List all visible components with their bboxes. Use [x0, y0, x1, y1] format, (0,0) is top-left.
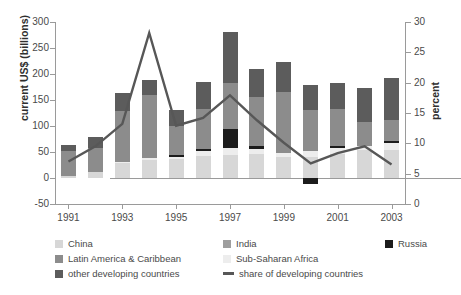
y-tick-label-left-2: 200: [15, 68, 49, 79]
y-tick-label-left-7: -50: [15, 198, 49, 209]
legend-color-swatch: [385, 240, 393, 248]
legend-item-russia[interactable]: Russia: [385, 238, 427, 249]
legend-item-sub-saharan-africa[interactable]: Sub-Saharan Africa: [223, 253, 318, 264]
x-tick-2001: [338, 204, 339, 209]
y-tick-right-15: [406, 113, 411, 114]
share-line-series: [55, 22, 405, 204]
legend-label: Sub-Saharan Africa: [236, 253, 318, 264]
y-tick-label-left-5: 50: [15, 146, 49, 157]
x-tick-label-2003: 2003: [372, 212, 412, 223]
y-tick-label-right-2: 20: [414, 77, 444, 88]
y-tick-right-0: [406, 204, 411, 205]
x-tick-label-1999: 1999: [264, 212, 304, 223]
y-axis-right-title: percent: [429, 61, 441, 141]
legend-color-swatch: [55, 255, 63, 263]
x-tick-label-1993: 1993: [102, 212, 142, 223]
x-tick-1997: [230, 204, 231, 209]
y-tick-label-left-0: 300: [15, 16, 49, 27]
y-tick-label-right-0: 30: [414, 16, 444, 27]
legend-label: Russia: [398, 238, 427, 249]
legend-label: India: [236, 238, 257, 249]
x-tick-label-1991: 1991: [48, 212, 88, 223]
x-tick-1991: [68, 204, 69, 209]
y-tick-label-left-4: 100: [15, 120, 49, 131]
legend-color-swatch: [55, 240, 63, 248]
x-tick-1995: [176, 204, 177, 209]
legend-item-india[interactable]: India: [223, 238, 257, 249]
legend-item-china[interactable]: China: [55, 238, 93, 249]
legend-label: Latin America & Caribbean: [68, 253, 181, 264]
x-tick-label-1995: 1995: [156, 212, 196, 223]
x-tick-1999: [284, 204, 285, 209]
y-tick-label-right-1: 25: [414, 46, 444, 57]
y-tick-label-right-6: 0: [414, 198, 444, 209]
chart-legend: ChinaIndiaRussiaLatin America & Caribbea…: [55, 238, 455, 290]
y-tick-label-left-1: 250: [15, 42, 49, 53]
legend-label: other developing countries: [68, 268, 179, 279]
x-tick-label-1997: 1997: [210, 212, 250, 223]
y-tick-right-20: [406, 83, 411, 84]
legend-color-swatch: [55, 270, 63, 278]
y-tick-right-30: [406, 22, 411, 23]
y-tick-right-10: [406, 143, 411, 144]
y-tick-label-right-4: 10: [414, 137, 444, 148]
y-tick-label-left-3: 150: [15, 94, 49, 105]
legend-label: China: [68, 238, 93, 249]
legend-color-swatch: [223, 240, 231, 248]
legend-item-latin-america-caribbean[interactable]: Latin America & Caribbean: [55, 253, 181, 264]
legend-item-other-developing-countries[interactable]: other developing countries: [55, 268, 179, 279]
plot-area: [55, 22, 405, 204]
y-tick-label-right-3: 15: [414, 107, 444, 118]
y-tick-label-right-5: 5: [414, 168, 444, 179]
y-tick-label-left-6: 0: [15, 172, 49, 183]
legend-label: share of developing countries: [239, 268, 363, 279]
legend-line-swatch: [223, 272, 234, 275]
x-tick-1993: [122, 204, 123, 209]
share-of-developing-countries-line: [68, 33, 391, 165]
legend-item-share-of-developing-countries[interactable]: share of developing countries: [223, 268, 363, 279]
legend-color-swatch: [223, 255, 231, 263]
x-tick-2003: [392, 204, 393, 209]
y-tick-right-25: [406, 52, 411, 53]
y-tick-right-5: [406, 174, 411, 175]
x-tick-label-2001: 2001: [318, 212, 358, 223]
y-tick-left--50: [50, 204, 55, 205]
